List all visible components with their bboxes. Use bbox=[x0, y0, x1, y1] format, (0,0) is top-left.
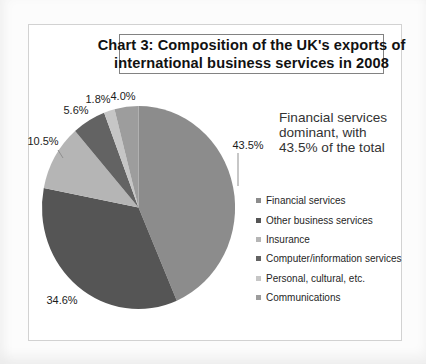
legend-marker-icon bbox=[256, 198, 261, 203]
annotation-line-3: 43.5% of the total bbox=[279, 141, 387, 156]
slice-value-label-4: 5.6% bbox=[63, 104, 88, 116]
slice-value-label-5: 1.8% bbox=[85, 93, 110, 105]
legend-marker-icon bbox=[256, 295, 261, 300]
legend-item-2: Other business services bbox=[256, 210, 402, 229]
slice-value-label-3: 10.5% bbox=[27, 135, 58, 147]
legend-item-6: Communications bbox=[256, 288, 402, 307]
slice-value-label-6: 4.0% bbox=[110, 90, 135, 102]
legend-item-1: Financial services bbox=[256, 191, 402, 210]
legend-marker-icon bbox=[256, 237, 261, 242]
legend-label: Financial services bbox=[266, 195, 345, 206]
annotation-line-2: dominant, with bbox=[279, 126, 387, 141]
legend-marker-icon bbox=[256, 218, 261, 223]
legend-marker-icon bbox=[256, 276, 261, 281]
legend-label: Communications bbox=[266, 292, 340, 303]
legend-label: Personal, cultural, etc. bbox=[266, 273, 365, 284]
legend-item-4: Computer/information services bbox=[256, 249, 402, 268]
chart-legend: Financial servicesOther business service… bbox=[256, 191, 402, 307]
slice-value-label-1: 43.5% bbox=[232, 139, 263, 151]
legend-marker-icon bbox=[256, 256, 261, 261]
chart-title-line-1: Chart 3: Composition of the UK's exports… bbox=[98, 36, 406, 55]
legend-label: Other business services bbox=[266, 215, 373, 226]
legend-label: Computer/information services bbox=[266, 253, 402, 264]
annotation-line-1: Financial services bbox=[279, 111, 387, 126]
chart-annotation: Financial services dominant, with 43.5% … bbox=[279, 111, 387, 155]
chart-title-box: Chart 3: Composition of the UK's exports… bbox=[119, 34, 384, 74]
chart-area: Chart 3: Composition of the UK's exports… bbox=[28, 24, 402, 341]
chart-title-line-2: international business services in 2008 bbox=[114, 54, 389, 73]
legend-label: Insurance bbox=[266, 234, 310, 245]
legend-item-3: Insurance bbox=[256, 230, 402, 249]
legend-item-5: Personal, cultural, etc. bbox=[256, 269, 402, 288]
slice-value-label-2: 34.6% bbox=[46, 294, 77, 306]
scanned-chart-page: Chart 3: Composition of the UK's exports… bbox=[0, 0, 426, 364]
